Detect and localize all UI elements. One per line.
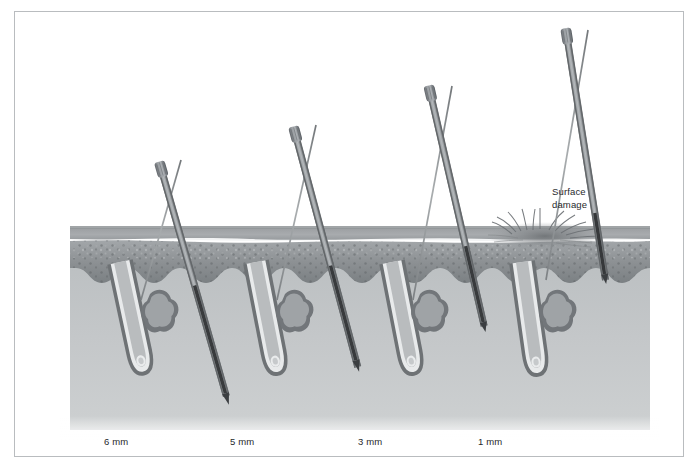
- surface-damage-label: Surface damage: [552, 186, 587, 211]
- depth-label-5mm: 5 mm: [230, 436, 254, 447]
- depth-label-3mm: 3 mm: [358, 436, 382, 447]
- figure-frame: [14, 11, 684, 457]
- figure-root: 6 mm 5 mm 3 mm 1 mm Surface damage: [0, 0, 699, 469]
- depth-label-6mm: 6 mm: [104, 436, 128, 447]
- depth-label-1mm: 1 mm: [478, 436, 502, 447]
- surface-damage-label-line1: Surface: [552, 186, 587, 199]
- surface-damage-label-line2: damage: [552, 199, 587, 212]
